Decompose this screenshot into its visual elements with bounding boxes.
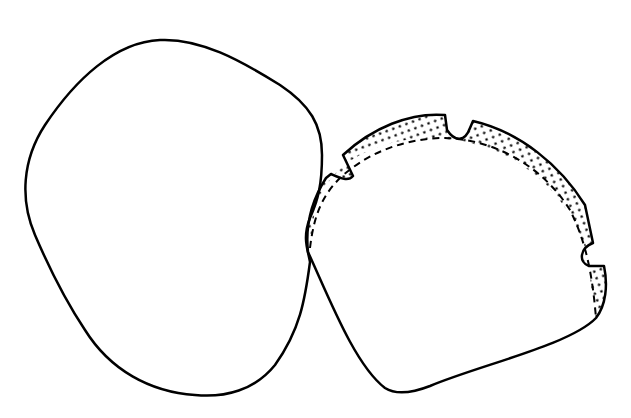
stippled-band (308, 115, 606, 318)
diagram-svg (0, 0, 631, 418)
left-shape-outline (25, 40, 322, 396)
figure-canvas (0, 0, 631, 418)
